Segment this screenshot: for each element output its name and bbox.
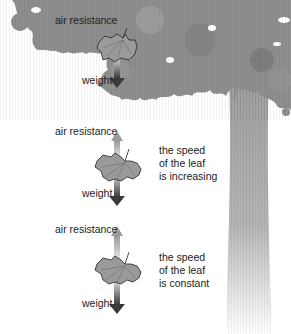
- speed-description: the speed of the leaf is increasing: [159, 144, 217, 183]
- speed-description: the speed of the leaf is constant: [159, 251, 209, 290]
- falling-leaf-diagram: air resistance weight air resistance wei…: [0, 0, 291, 334]
- weight-label: weight: [82, 74, 112, 87]
- air-resistance-label: air resistance: [55, 14, 117, 27]
- weight-label: weight: [82, 187, 112, 200]
- tree-illustration: [0, 0, 291, 334]
- air-resistance-label: air resistance: [55, 125, 117, 138]
- weight-arrow-shaft: [114, 281, 120, 305]
- air-resistance-label: air resistance: [55, 223, 117, 236]
- weight-label: weight: [82, 297, 112, 310]
